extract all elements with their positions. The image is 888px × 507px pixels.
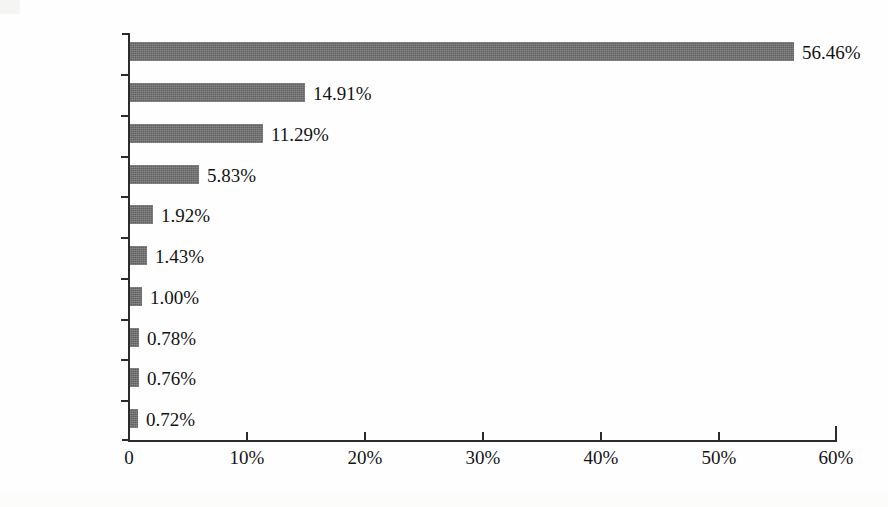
x-axis-tick	[364, 432, 366, 441]
y-axis-tick	[121, 115, 129, 117]
y-axis-tick	[121, 359, 129, 361]
y-axis-tick	[121, 400, 129, 402]
x-axis-tick	[128, 426, 130, 442]
value-label: 0.76%	[147, 369, 196, 388]
bar-chart: 中国 56.46% 美国 14.91% 日本 11.29% 韩国 5.83% 德…	[0, 0, 888, 507]
x-axis-tick	[600, 432, 602, 441]
value-label: 1.43%	[155, 247, 204, 266]
bar	[130, 368, 139, 387]
bar	[130, 409, 138, 428]
y-axis-tick	[121, 156, 129, 158]
bar	[130, 42, 794, 61]
y-axis-top-cap	[122, 33, 129, 35]
y-axis-tick	[121, 237, 129, 239]
y-axis-tick	[121, 278, 129, 280]
y-axis-tick	[121, 196, 129, 198]
x-axis-tick-label: 30%	[443, 447, 523, 469]
x-axis-tick-label: 10%	[207, 447, 287, 469]
x-axis-tick-label: 0	[89, 447, 169, 469]
bar	[130, 83, 305, 102]
x-axis-tick-label: 60%	[796, 447, 876, 469]
x-axis-tick-label: 20%	[325, 447, 405, 469]
value-label: 1.92%	[161, 206, 210, 225]
y-axis-tick	[121, 74, 129, 76]
x-axis-tick	[246, 432, 248, 441]
value-label: 56.46%	[802, 43, 861, 62]
x-axis-tick	[718, 432, 720, 441]
x-axis-tick-label: 50%	[679, 447, 759, 469]
bar	[130, 287, 142, 306]
value-label: 11.29%	[271, 125, 329, 144]
bar	[130, 205, 153, 224]
bar	[130, 246, 147, 265]
bar	[130, 165, 199, 184]
bar	[130, 328, 139, 347]
value-label: 1.00%	[150, 288, 199, 307]
x-axis-tick	[835, 426, 837, 442]
plot-area: 中国 56.46% 美国 14.91% 日本 11.29% 韩国 5.83% 德…	[0, 0, 888, 507]
y-axis-tick	[121, 319, 129, 321]
value-label: 0.78%	[147, 329, 196, 348]
value-label: 0.72%	[146, 410, 195, 429]
x-axis-tick	[482, 432, 484, 441]
bar	[130, 124, 263, 143]
x-axis-tick-label: 40%	[561, 447, 641, 469]
value-label: 14.91%	[313, 84, 372, 103]
value-label: 5.83%	[207, 166, 256, 185]
